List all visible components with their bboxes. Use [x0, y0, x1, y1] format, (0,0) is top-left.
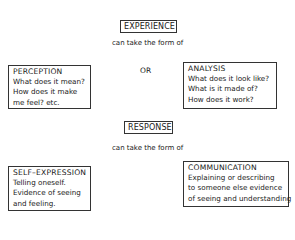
- self-expression-box: SELF–EXPRESSION Telling oneself. Evidenc…: [8, 166, 91, 211]
- self-expression-line: Telling oneself.: [13, 178, 86, 188]
- perception-box: PERCEPTION What does it mean? How does i…: [8, 65, 91, 109]
- analysis-line: What does it look like?: [188, 74, 272, 84]
- analysis-box: ANALYSIS What does it look like? What is…: [183, 62, 277, 109]
- perception-title: PERCEPTION: [13, 67, 86, 77]
- communication-box: COMMUNICATION Explaining or describing t…: [183, 161, 289, 207]
- analysis-line: How does it work?: [188, 95, 272, 105]
- perception-line: How does it make: [13, 87, 86, 97]
- perception-line: What does it mean?: [13, 77, 86, 87]
- self-expression-line: and feeling.: [13, 199, 86, 209]
- experience-label: EXPERIENCE: [124, 22, 175, 31]
- analysis-title: ANALYSIS: [188, 64, 272, 74]
- response-box: RESPONSE: [124, 121, 173, 134]
- experience-box: EXPERIENCE: [120, 20, 177, 33]
- self-expression-line: Evidence of seeing: [13, 188, 86, 198]
- self-expression-title: SELF–EXPRESSION: [13, 168, 86, 178]
- communication-line: to someone else evidence: [188, 183, 284, 193]
- or-separator: OR: [140, 66, 151, 75]
- communication-line: of seeing and understanding: [188, 194, 284, 204]
- communication-line: Explaining or describing: [188, 173, 284, 183]
- analysis-line: What is it made of?: [188, 84, 272, 94]
- response-connector: can take the form of: [112, 144, 183, 153]
- response-label: RESPONSE: [128, 123, 172, 132]
- communication-title: COMMUNICATION: [188, 163, 284, 173]
- perception-line: me feel? etc.: [13, 98, 86, 108]
- experience-connector: can take the form of: [112, 39, 183, 48]
